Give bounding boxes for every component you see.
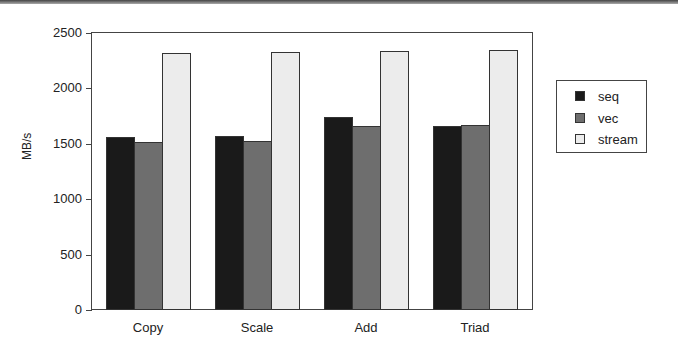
bar-add-vec: [352, 126, 381, 310]
bar-add-seq: [324, 117, 353, 310]
y-tick: [86, 88, 92, 89]
y-tick: [86, 310, 92, 311]
legend-item-seq: seq: [575, 87, 619, 105]
legend-item-vec: vec: [575, 109, 618, 127]
bar-add-stream: [380, 51, 409, 310]
bar-scale-stream: [271, 52, 300, 310]
y-tick-label: 1500: [40, 136, 82, 151]
bar-copy-vec: [134, 142, 163, 310]
y-tick: [86, 199, 92, 200]
x-tick-label: Triad: [433, 320, 517, 335]
vec-swatch-icon: [575, 113, 585, 123]
y-tick-label: 2500: [40, 25, 82, 40]
y-tick-label: 1000: [40, 191, 82, 206]
bar-triad-stream: [489, 50, 518, 310]
bar-scale-vec: [243, 141, 272, 310]
y-tick-label: 500: [40, 247, 82, 262]
top-border: [0, 0, 678, 4]
seq-swatch-icon: [575, 91, 585, 101]
stream-swatch-icon: [575, 134, 585, 144]
y-tick-label: 0: [40, 302, 82, 317]
x-tick-label: Add: [324, 320, 408, 335]
bar-triad-seq: [433, 126, 462, 310]
legend-item-stream: stream: [575, 130, 638, 148]
bar-scale-seq: [215, 136, 244, 310]
x-tick-label: Copy: [106, 320, 190, 335]
legend-label: vec: [598, 111, 618, 126]
legend-label: seq: [598, 89, 619, 104]
bar-copy-seq: [106, 137, 135, 310]
y-tick: [86, 33, 92, 34]
x-tick-label: Scale: [215, 320, 299, 335]
legend-label: stream: [598, 132, 638, 147]
bar-copy-stream: [162, 53, 191, 310]
legend: seq vec stream: [556, 80, 647, 153]
bar-triad-vec: [461, 125, 490, 310]
y-axis-title: MB/s: [20, 133, 34, 160]
y-tick: [86, 144, 92, 145]
y-tick-label: 2000: [40, 80, 82, 95]
y-tick: [86, 255, 92, 256]
